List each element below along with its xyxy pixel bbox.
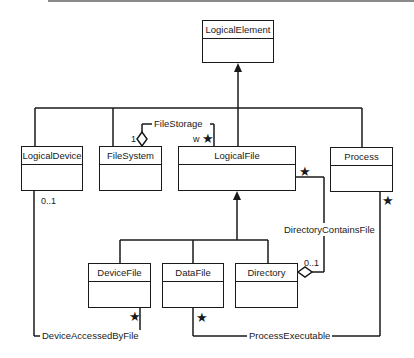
aggregation-diamond-icon (137, 132, 147, 146)
star-icon: ★ (202, 133, 214, 145)
class-name: DeviceFile (89, 264, 150, 282)
star-icon: ★ (196, 312, 208, 324)
class-data-file[interactable]: DataFile (162, 263, 224, 308)
multiplicity-logical-device: 0..1 (41, 196, 56, 206)
association-file-storage: FileStorage (152, 118, 205, 129)
class-file-system[interactable]: FileSystem (99, 146, 162, 191)
association-process-executable: ProcessExecutable (247, 330, 332, 341)
star-icon: ★ (382, 195, 394, 207)
class-logical-file[interactable]: LogicalFile (178, 146, 296, 191)
class-name: FileSystem (100, 147, 161, 165)
multiplicity-file-system: 1 (131, 134, 136, 144)
class-name: DataFile (163, 264, 223, 282)
class-device-file[interactable]: DeviceFile (88, 263, 151, 308)
star-icon: ★ (299, 166, 311, 178)
class-directory[interactable]: Directory (235, 263, 298, 308)
multiplicity-directory: 0..1 (304, 258, 319, 268)
class-logical-device[interactable]: LogicalDevice (21, 146, 83, 191)
class-name: Process (331, 148, 392, 166)
inheritance-arrow-icon (234, 63, 242, 72)
inheritance-arrow-icon (233, 191, 241, 200)
class-name: LogicalFile (179, 147, 295, 165)
star-icon: ★ (129, 311, 141, 323)
association-directory-contains-file: DirectoryContainsFile (282, 224, 377, 235)
class-name: LogicalElement (203, 21, 273, 39)
aggregation-diamond-icon (298, 267, 312, 277)
class-name: Directory (236, 264, 297, 282)
class-logical-element[interactable]: LogicalElement (202, 20, 274, 63)
association-device-accessed-by-file: DeviceAccessedByFile (40, 330, 141, 341)
multiplicity-logical-file-w: w (193, 134, 200, 144)
class-process[interactable]: Process (330, 147, 393, 192)
class-name: LogicalDevice (22, 147, 82, 165)
